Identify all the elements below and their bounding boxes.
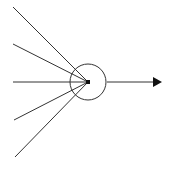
input-line-4 — [14, 82, 88, 120]
input-line-2 — [13, 44, 88, 82]
neuron-diagram — [0, 0, 171, 169]
summation-junction-dot — [86, 80, 90, 84]
input-lines — [13, 7, 88, 157]
input-line-1 — [13, 7, 88, 82]
output-arrow-icon — [153, 77, 162, 87]
input-line-5 — [15, 82, 88, 157]
